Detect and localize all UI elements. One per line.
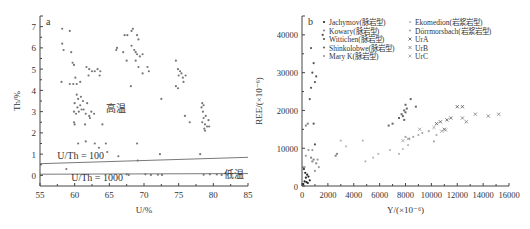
data-point — [303, 180, 305, 182]
data-point — [83, 108, 85, 110]
data-point — [94, 142, 96, 144]
data-point — [340, 140, 342, 142]
data-point — [76, 94, 78, 96]
x-tick-label: 60 — [70, 190, 80, 200]
x-tick-label: 55 — [36, 190, 46, 200]
data-point — [432, 126, 435, 129]
data-point — [86, 102, 88, 104]
data-point — [65, 168, 67, 170]
data-point — [130, 30, 132, 32]
data-point — [404, 136, 406, 138]
data-point — [116, 47, 118, 49]
data-point — [449, 116, 452, 119]
figure: 5560657075808501234567U/%Th/%a高温低温U/Th =… — [0, 0, 530, 229]
data-point — [403, 119, 405, 121]
data-point — [209, 173, 211, 175]
data-point — [132, 28, 134, 30]
data-point — [159, 153, 161, 155]
data-point — [398, 153, 400, 155]
data-point — [177, 68, 179, 70]
data-point — [345, 145, 347, 147]
data-point — [456, 105, 459, 108]
data-point — [412, 136, 414, 138]
data-point — [421, 132, 423, 134]
data-point — [73, 121, 75, 123]
data-point — [306, 174, 308, 176]
data-point — [315, 75, 317, 77]
data-point — [208, 125, 210, 127]
y-tick-label: 7 — [32, 22, 37, 32]
x-tick-label: 0 — [300, 190, 304, 200]
data-point — [142, 53, 144, 55]
x-tick-label: 12000 — [447, 190, 468, 200]
y-tick-label: 5 — [32, 65, 37, 75]
x-tick-label: 85 — [244, 190, 254, 200]
data-point — [185, 74, 187, 76]
data-point — [203, 117, 205, 119]
data-point — [182, 77, 184, 79]
data-point — [178, 74, 180, 76]
data-point — [76, 106, 78, 108]
data-point — [418, 128, 421, 131]
data-point — [435, 134, 437, 136]
data-point — [81, 108, 83, 110]
data-point — [487, 115, 490, 118]
data-point — [204, 130, 206, 132]
legend-label: Dörrmorsbach(岩浆岩型) — [415, 26, 492, 36]
data-point — [309, 179, 311, 181]
data-point — [101, 123, 103, 125]
data-point — [74, 77, 76, 79]
data-point — [71, 62, 73, 64]
legend-label: Wittichen(脉岩型) — [329, 34, 385, 44]
data-point — [135, 51, 137, 53]
data-point — [62, 49, 64, 51]
legend: Jachymov(脉岩型)Kowary(脉岩型)Wittichen(脉岩型)Sh… — [323, 17, 492, 61]
data-point — [157, 174, 159, 176]
y-tick-label: 3 — [32, 107, 37, 117]
data-point — [93, 113, 95, 115]
data-point — [461, 105, 464, 108]
data-point — [307, 175, 309, 177]
legend-item: Shinkolobwe(脉岩型) — [323, 43, 395, 53]
data-point — [304, 172, 306, 174]
data-point — [435, 122, 438, 125]
data-point — [445, 118, 448, 121]
annotation: U/Th = 100 — [57, 150, 104, 161]
data-point — [401, 139, 404, 142]
x-tick-label: 80 — [209, 190, 219, 200]
data-point — [106, 151, 108, 153]
data-point — [175, 60, 177, 62]
legend-item: Ekomedion(岩浆岩型) — [409, 17, 483, 27]
data-point — [79, 81, 81, 83]
y-tick-label: 0 — [32, 171, 37, 181]
data-point — [89, 117, 91, 119]
data-point — [82, 100, 84, 102]
legend-marker-icon — [323, 55, 325, 57]
data-point — [88, 115, 90, 117]
data-point — [315, 162, 317, 164]
legend-marker-icon — [409, 46, 412, 49]
data-point — [309, 98, 311, 100]
legend-label: Shinkolobwe(脉岩型) — [329, 43, 395, 53]
data-point — [73, 111, 75, 113]
data-point — [402, 148, 404, 150]
data-point — [204, 123, 206, 125]
data-point — [461, 116, 464, 119]
data-point — [336, 153, 338, 155]
data-point — [80, 96, 82, 98]
data-point — [135, 60, 137, 62]
legend-label: Jachymov(脉岩型) — [329, 17, 386, 27]
data-point — [128, 174, 130, 176]
data-point — [313, 159, 315, 161]
legend-marker-icon — [409, 38, 412, 41]
data-point — [392, 123, 394, 125]
data-point — [203, 104, 205, 106]
data-point — [474, 113, 477, 116]
legend-marker-icon — [409, 29, 411, 31]
data-point — [203, 174, 205, 176]
data-point — [311, 72, 313, 74]
data-point — [305, 125, 307, 127]
data-point — [428, 130, 430, 132]
y-tick-label: 30000 — [277, 68, 298, 78]
x-tick-label: 4000 — [345, 190, 362, 200]
